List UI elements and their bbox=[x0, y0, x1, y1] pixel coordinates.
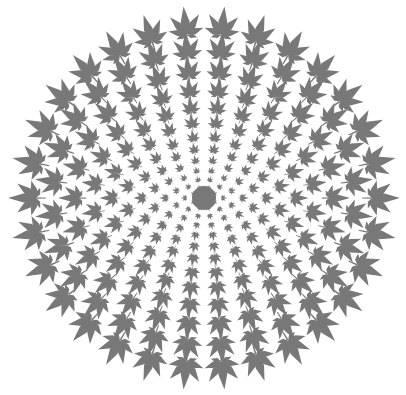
leaf-icon bbox=[238, 217, 255, 234]
leaf-icon bbox=[207, 165, 217, 175]
leaf-icon bbox=[101, 160, 127, 185]
leaf-icon bbox=[58, 185, 86, 211]
leaf-icon bbox=[215, 204, 225, 214]
leaf-icon bbox=[147, 181, 162, 195]
leaf-icon bbox=[189, 154, 201, 166]
leaf-icon bbox=[227, 186, 237, 196]
leaf-icon bbox=[100, 188, 121, 207]
leaf-icon bbox=[133, 191, 148, 205]
leaf-icon bbox=[189, 230, 201, 242]
leaf-icon bbox=[281, 160, 307, 185]
leaf-icon bbox=[159, 193, 169, 203]
leaf-icon bbox=[167, 148, 184, 165]
leaf-icon bbox=[183, 204, 193, 214]
leaf-icon bbox=[238, 162, 255, 179]
leaf-icon bbox=[60, 43, 111, 94]
leaf-icon bbox=[178, 172, 189, 183]
leaf-icon bbox=[238, 193, 248, 203]
leaf-icon bbox=[222, 161, 236, 175]
leaf-icon bbox=[260, 191, 275, 205]
leaf-icon bbox=[288, 188, 309, 207]
leaf-icon bbox=[362, 180, 400, 215]
leaf-icon bbox=[247, 201, 262, 215]
leaf-icon bbox=[172, 221, 186, 235]
leaf-icon bbox=[355, 141, 399, 183]
leaf-icon bbox=[171, 201, 181, 211]
leaf-icon bbox=[297, 301, 348, 352]
leaf-icon bbox=[224, 231, 241, 248]
leaf-icon bbox=[233, 208, 247, 221]
leaf-icon bbox=[219, 172, 230, 183]
leaf-icon bbox=[162, 175, 176, 188]
leaf-icon bbox=[194, 175, 203, 184]
leaf-icon bbox=[297, 43, 348, 94]
leaf-icon bbox=[247, 181, 262, 195]
leaf-icon bbox=[206, 175, 215, 184]
leaf-icon bbox=[194, 212, 203, 221]
mandala-group bbox=[8, 5, 400, 392]
leaf-icon bbox=[135, 168, 153, 186]
center-disc bbox=[192, 186, 216, 210]
leaf-icon bbox=[243, 228, 263, 248]
leaf-icon bbox=[145, 148, 165, 168]
leaf-icon bbox=[171, 186, 181, 196]
leaf-icon bbox=[355, 213, 399, 255]
leaf-icon bbox=[215, 182, 225, 192]
leaf-icon bbox=[271, 200, 291, 219]
leaf-icon bbox=[192, 165, 202, 175]
leaf-icon bbox=[181, 195, 188, 202]
leaf-icon bbox=[207, 220, 217, 230]
leaf-mandala bbox=[0, 0, 406, 395]
leaf-icon bbox=[117, 200, 137, 219]
leaf-icon bbox=[271, 176, 291, 195]
leaf-icon bbox=[145, 228, 165, 248]
leaf-icon bbox=[9, 141, 53, 183]
leaf-icon bbox=[167, 231, 184, 248]
leaf-icon bbox=[281, 212, 307, 237]
leaf-icon bbox=[206, 212, 215, 221]
leaf-icon bbox=[183, 182, 193, 192]
leaf-icon bbox=[222, 221, 236, 235]
leaf-icon bbox=[147, 201, 162, 215]
leaf-icon bbox=[192, 220, 202, 230]
leaf-icon bbox=[254, 168, 272, 186]
leaf-icon bbox=[153, 162, 170, 179]
leaf-icon bbox=[162, 208, 176, 221]
leaf-icon bbox=[322, 185, 350, 211]
leaf-icon bbox=[8, 180, 46, 215]
leaf-icon bbox=[227, 201, 237, 211]
leaf-icon bbox=[153, 217, 170, 234]
leaf-icon bbox=[101, 212, 127, 237]
leaf-icon bbox=[172, 161, 186, 175]
leaf-icon bbox=[233, 175, 247, 188]
leaf-icon bbox=[207, 230, 219, 242]
leaf-icon bbox=[135, 210, 153, 228]
leaf-icon bbox=[219, 212, 230, 223]
leaf-icon bbox=[178, 212, 189, 223]
leaf-icon bbox=[117, 176, 137, 195]
leaf-icon bbox=[224, 148, 241, 165]
leaf-icon bbox=[220, 195, 227, 202]
leaf-icon bbox=[9, 213, 53, 255]
leaf-icon bbox=[207, 154, 219, 166]
leaf-icon bbox=[243, 148, 263, 168]
leaf-icon bbox=[60, 301, 111, 352]
leaf-icon bbox=[254, 210, 272, 228]
